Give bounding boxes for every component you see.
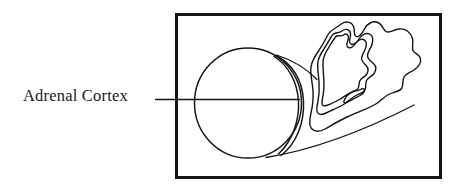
- figure-root: Adrenal Cortex: [0, 0, 462, 191]
- inner-inclusion: [344, 89, 365, 103]
- gland-circle-outline: [195, 48, 302, 158]
- cortex-cross-section: [310, 22, 421, 131]
- diagram-frame: [177, 15, 441, 178]
- cortex-contour-middle: [317, 29, 376, 114]
- adrenal-cortex-label: Adrenal Cortex: [23, 86, 128, 106]
- adrenal-gland-cylinder: [195, 48, 304, 158]
